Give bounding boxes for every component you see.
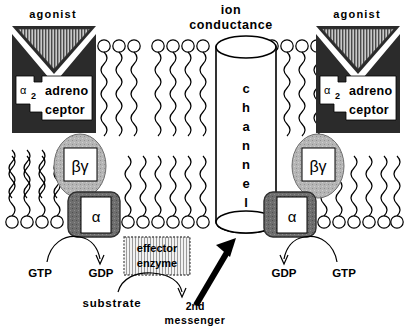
channel-letter: c [242,81,249,96]
effector-label-line2: enzyme [137,257,177,269]
second-messenger-activation-arrow [196,238,236,305]
channel-letter: h [242,100,250,115]
upper-leaflet [98,40,323,136]
channel-letter: e [242,176,249,191]
alpha2-subscript-right: 2 [335,91,340,101]
channel-letter: n [242,138,250,153]
receptor-name-line1-right: adreno [349,84,393,98]
receptor-name-line2-right: ceptor [349,103,389,117]
g-alpha-label-left: α [92,208,101,225]
g-alpha-label-right: α [288,208,297,225]
diagram-canvas: c h a n n e l ion conductance agonist [0,0,405,329]
alpha2-symbol-left: α [20,84,27,96]
gtp-gdp-arc-right [284,236,337,262]
substrate-label: substrate [83,297,142,309]
channel-letter: l [244,195,248,210]
g-protein-left[interactable]: βγ α GTP GDP [28,134,120,279]
receptor-name-line1-left: adreno [45,84,89,98]
gdp-label-left: GDP [89,267,114,279]
ion-conductance-label-line2: conductance [189,18,273,32]
channel-letter: a [242,119,250,134]
beta-gamma-label-right: βγ [309,158,326,175]
gtp-label-left: GTP [28,267,52,279]
receptor-complex-left[interactable]: agonist α 2 adreno ceptor [12,8,96,133]
channel-label: c h a n n e l [242,81,250,210]
signal-transduction-diagram: c h a n n e l ion conductance agonist [0,0,405,329]
receptor-name-line2-left: ceptor [45,103,85,117]
agonist-label-right: agonist [333,8,381,20]
effector-label-line1: effector [137,242,178,254]
gtp-label-right: GTP [332,267,356,279]
second-messenger-line2: messenger [165,314,226,326]
effector-enzyme[interactable]: effector enzyme substrate 2nd messenger [83,237,226,326]
g-protein-right[interactable]: βγ α GDP GTP [264,134,356,279]
receptor-complex-right[interactable]: agonist α 2 adreno ceptor [316,8,400,133]
gdp-label-right: GDP [272,267,297,279]
alpha2-subscript-left: 2 [31,91,36,101]
inner-leaflet-tails [9,150,60,198]
substrate-product-arrowhead [178,288,186,297]
agonist-label-left: agonist [29,8,77,20]
channel-letter: n [242,157,250,172]
substrate-product-arc [118,273,182,292]
alpha2-symbol-right: α [324,84,331,96]
ion-conductance-label-line1: ion [221,3,242,17]
gtp-gdp-arc-left [47,236,100,262]
beta-gamma-label-left: βγ [71,158,88,175]
